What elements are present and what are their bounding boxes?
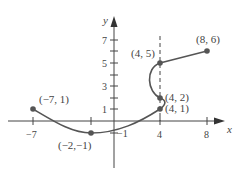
graph: x y −7 4 8 7 5 3 1 −1 (−7, 1) (−2,−1) (4…	[0, 0, 238, 171]
label-4-1: (4, 1)	[165, 102, 189, 115]
point-neg7-1	[30, 106, 36, 112]
point-4-1	[157, 106, 163, 112]
point-4-2	[157, 95, 163, 101]
x-tick-label--7: −7	[26, 129, 37, 140]
point-8-6	[204, 48, 210, 54]
label-neg2-neg1: (−2,−1)	[58, 139, 92, 152]
y-tick-label-1: 1	[102, 104, 107, 115]
point-4-5	[157, 60, 163, 66]
x-axis-label: x	[226, 123, 232, 135]
y-tick-label-5: 5	[102, 58, 107, 69]
x-tick-label-8: 8	[204, 129, 209, 140]
y-axis-label: y	[102, 14, 108, 26]
y-tick-label-7: 7	[102, 35, 107, 46]
x-tick-label-4: 4	[157, 129, 162, 140]
y-axis-arrow-icon	[111, 16, 118, 27]
label-4-2: (4, 2)	[165, 91, 189, 104]
label-4-5: (4, 5)	[131, 47, 155, 60]
x-axis-arrow-icon	[214, 118, 225, 125]
label-8-6: (8, 6)	[196, 33, 220, 46]
y-tick-label-3: 3	[102, 81, 107, 92]
point-neg2-neg1	[88, 130, 94, 136]
label-neg7-1: (−7, 1)	[39, 93, 69, 106]
